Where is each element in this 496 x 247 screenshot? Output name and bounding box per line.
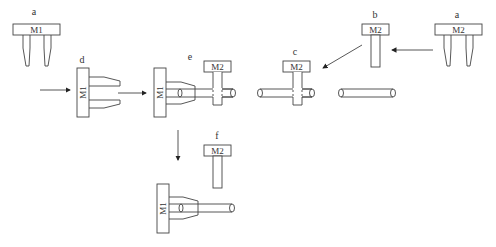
- rod-end: [230, 204, 235, 212]
- prong-left: [23, 35, 30, 66]
- label-a-left: a: [32, 6, 37, 17]
- component-e: e M1 M2: [154, 51, 236, 117]
- prong-right: [44, 35, 51, 66]
- m2-label: M2: [211, 62, 224, 72]
- label-c: c: [293, 46, 298, 57]
- m1-label: M1: [78, 86, 88, 99]
- m2-label: M2: [452, 25, 465, 35]
- m2-post: [371, 35, 380, 67]
- m1-label: M1: [158, 202, 168, 215]
- component-a-left: a M1: [13, 6, 60, 66]
- m2-label: M2: [290, 62, 303, 72]
- rod-end-left: [258, 89, 263, 97]
- m1-label: M1: [155, 86, 165, 99]
- component-d: d M1: [77, 54, 120, 117]
- rod-end-right: [310, 89, 315, 97]
- label-a-right: a: [455, 9, 460, 20]
- prong-left: [444, 35, 451, 66]
- component-f: f M2: [204, 130, 231, 188]
- label-e: e: [188, 51, 193, 62]
- component-a-right: a M2: [435, 9, 482, 66]
- label-b: b: [373, 9, 378, 20]
- m2-label: M2: [211, 146, 224, 156]
- assembly-diagram: a M1 d M1 e M1 M2: [0, 0, 496, 247]
- arrow-b-to-c: [323, 45, 362, 68]
- gripper: [166, 82, 195, 104]
- component-b: b M2: [362, 9, 389, 67]
- prong-top: [89, 77, 120, 86]
- label-d: d: [80, 54, 85, 65]
- prong-right: [466, 35, 473, 66]
- m1-label: M1: [30, 25, 43, 35]
- rod-end: [231, 89, 236, 97]
- component-final: M1: [157, 184, 235, 233]
- rod-end-inner: [178, 89, 182, 97]
- prong-bottom: [89, 100, 120, 108]
- rod-standalone: [339, 89, 396, 97]
- m2-label: M2: [369, 25, 382, 35]
- m2-post: [213, 156, 222, 188]
- component-c: c M2: [258, 46, 315, 105]
- gripper: [169, 197, 198, 219]
- label-f: f: [215, 130, 219, 141]
